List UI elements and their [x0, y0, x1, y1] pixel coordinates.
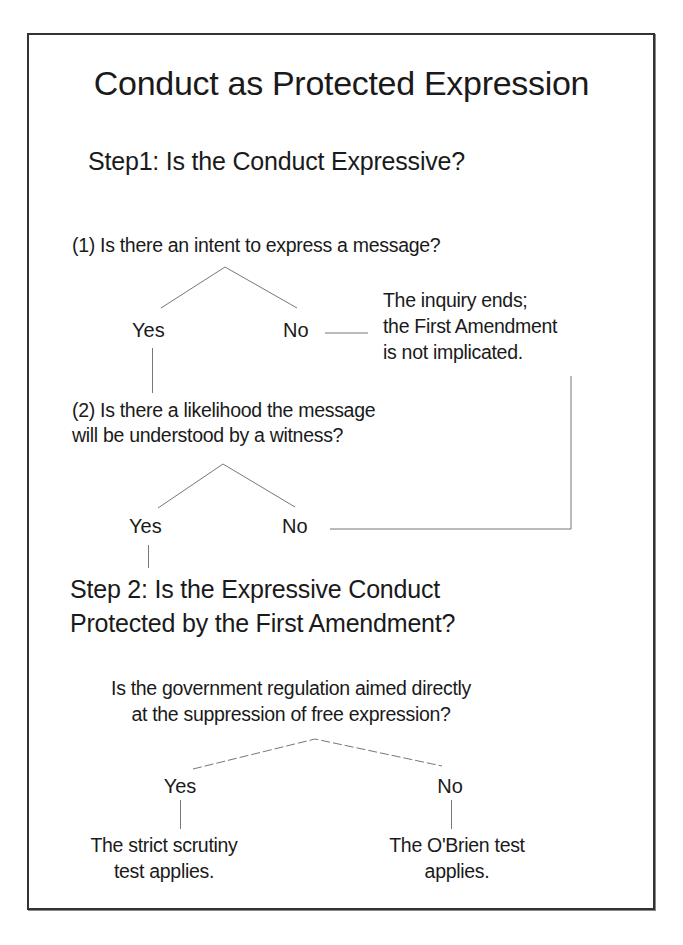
step2-question-line-2: at the suppression of free expression? [131, 705, 450, 725]
q1-no-outcome-line-3: is not implicated. [383, 343, 523, 363]
step2-no-label: No [437, 776, 463, 796]
q2-no-label: No [282, 516, 308, 536]
q1-no-outcome-line-1: The inquiry ends; [383, 291, 527, 311]
step2-question-line-1: Is the government regulation aimed direc… [111, 679, 471, 699]
strict-scrutiny-outcome-line-1: The strict scrutiny [90, 836, 237, 856]
q1-yes-label: Yes [132, 320, 165, 340]
diagram-title: Conduct as Protected Expression [0, 66, 683, 100]
obrien-outcome-line-1: The O'Brien test [389, 836, 524, 856]
question1-text: (1) Is there an intent to express a mess… [72, 236, 440, 256]
connector-lines [0, 0, 683, 945]
branch-connector-q1 [161, 267, 297, 308]
step2-yes-label: Yes [164, 776, 197, 796]
question2-line-2: will be understood by a witness? [72, 426, 343, 446]
branch-connector-q2 [158, 464, 295, 508]
q2-yes-label: Yes [129, 516, 162, 536]
step2-heading-line-2: Protected by the First Amendment? [70, 611, 455, 636]
strict-scrutiny-outcome-line-2: test applies. [114, 862, 214, 882]
branch-connector-step2 [193, 739, 442, 769]
question2-line-1: (2) Is there a likelihood the message [72, 401, 375, 421]
q1-no-label: No [283, 320, 309, 340]
step2-heading-line-1: Step 2: Is the Expressive Conduct [70, 577, 440, 602]
q1-no-outcome-line-2: the First Amendment [383, 317, 557, 337]
obrien-outcome-line-2: applies. [425, 862, 490, 882]
step1-heading: Step1: Is the Conduct Expressive? [88, 149, 465, 174]
